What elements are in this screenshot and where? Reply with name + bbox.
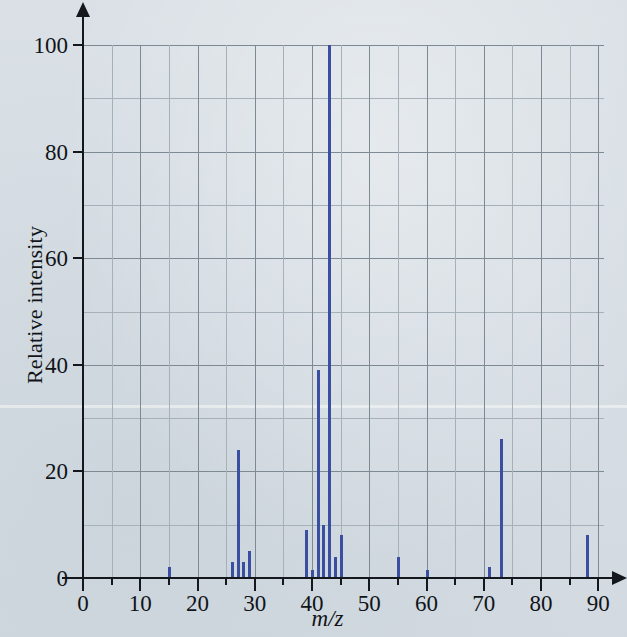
peak-bar — [237, 450, 240, 578]
x-axis-tick-major — [311, 578, 313, 591]
gridline-horizontal — [83, 98, 604, 99]
x-axis-tick-major — [540, 578, 542, 591]
y-axis-tick — [73, 364, 84, 366]
gridline-vertical — [140, 45, 141, 578]
peak-bar — [305, 530, 308, 578]
gridline-horizontal — [83, 258, 604, 259]
peak-bar — [317, 370, 320, 578]
y-axis-arrow — [76, 2, 90, 17]
gridline-vertical — [198, 45, 199, 578]
gridline-vertical — [512, 45, 513, 578]
y-axis-tick-label: 20 — [45, 460, 68, 483]
x-axis-tick-major — [368, 578, 370, 591]
x-axis-tick-minor — [225, 578, 227, 585]
x-axis-tick-major — [82, 578, 84, 591]
y-axis-tick-label: 0 — [57, 567, 69, 590]
x-axis-arrow — [612, 571, 627, 585]
gridline-vertical — [112, 45, 113, 578]
gridline-horizontal — [83, 365, 604, 366]
gridline-vertical — [541, 45, 542, 578]
gridline-horizontal — [83, 312, 604, 313]
x-axis-tick-minor — [454, 578, 456, 585]
gridline-vertical — [427, 45, 428, 578]
y-axis-tick-label: 100 — [34, 34, 69, 57]
x-axis-tick-major — [483, 578, 485, 591]
gridline-horizontal — [83, 205, 604, 206]
gridline-vertical — [169, 45, 170, 578]
y-axis-title: Relative intensity — [22, 155, 48, 455]
gridline-vertical — [341, 45, 342, 578]
gridline-horizontal — [83, 45, 604, 46]
y-axis-tick-label: 40 — [45, 353, 68, 376]
gridline-vertical — [369, 45, 370, 578]
peak-bar — [248, 551, 251, 578]
peak-bar — [231, 562, 234, 578]
y-axis-tick — [73, 151, 84, 153]
x-axis-tick-major — [597, 578, 599, 591]
gridline-vertical — [255, 45, 256, 578]
peak-bar — [340, 535, 343, 578]
gridline-vertical — [226, 45, 227, 578]
y-axis-tick — [73, 470, 84, 472]
peak-bar — [328, 45, 331, 578]
gridline-vertical — [455, 45, 456, 578]
plot-area — [83, 45, 604, 578]
peak-bar — [334, 557, 337, 578]
gridline-vertical — [283, 45, 284, 578]
x-axis-tick-minor — [282, 578, 284, 585]
y-axis-tick — [73, 44, 84, 46]
y-axis-tick-label: 80 — [45, 140, 68, 163]
y-axis-tick-label: 60 — [45, 247, 68, 270]
gridline-horizontal — [83, 525, 604, 526]
gridline-horizontal — [83, 471, 604, 472]
gridline-vertical — [484, 45, 485, 578]
peak-bar — [242, 562, 245, 578]
gridline-horizontal — [83, 152, 604, 153]
x-axis-tick-minor — [111, 578, 113, 585]
x-axis-tick-major — [139, 578, 141, 591]
x-axis-tick-major — [197, 578, 199, 591]
x-axis-tick-minor — [340, 578, 342, 585]
gridline-vertical — [398, 45, 399, 578]
gridline-horizontal — [83, 418, 604, 419]
x-axis-tick-major — [254, 578, 256, 591]
x-axis-tick-major — [426, 578, 428, 591]
peak-bar — [500, 439, 503, 578]
x-axis-tick-minor — [168, 578, 170, 585]
gridline-vertical — [598, 45, 599, 578]
peak-bar — [397, 557, 400, 578]
peak-bar — [586, 535, 589, 578]
x-axis-tick-minor — [569, 578, 571, 585]
x-axis-tick-minor — [397, 578, 399, 585]
y-axis-tick — [73, 257, 84, 259]
gridline-vertical — [312, 45, 313, 578]
mass-spectrum-figure: 020406080100 0102030405060708090 Relativ… — [0, 0, 627, 637]
y-axis-line — [82, 14, 84, 580]
x-axis-tick-minor — [511, 578, 513, 585]
x-axis-title: m/z — [0, 606, 627, 632]
gridline-vertical — [570, 45, 571, 578]
peak-bar — [322, 525, 325, 578]
